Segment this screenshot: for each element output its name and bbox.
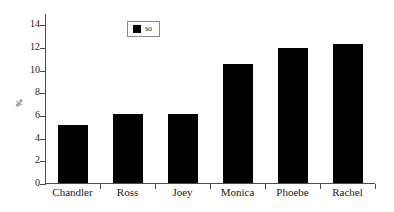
y-tick-label: 6: [35, 109, 40, 120]
y-tick-mark: [40, 93, 46, 94]
x-tick-mark: [155, 184, 156, 189]
y-tick-mark: [40, 48, 46, 49]
y-tick-label: 0: [35, 177, 40, 188]
x-tick-label: Ross: [117, 186, 138, 198]
bar: [333, 44, 363, 183]
legend-swatch-icon: [133, 25, 141, 33]
legend: so: [127, 21, 160, 37]
y-tick-label: 8: [35, 86, 40, 97]
x-tick-mark: [375, 184, 376, 189]
y-axis-line: [45, 14, 46, 184]
y-tick-mark: [40, 139, 46, 140]
y-tick-label: 12: [30, 41, 40, 52]
y-tick-label: 4: [35, 132, 40, 143]
plot-area: 02468101214: [45, 14, 375, 184]
x-tick-label: Joey: [172, 186, 192, 198]
y-tick-mark: [40, 25, 46, 26]
y-tick-label: 10: [30, 64, 40, 75]
x-tick-label: Monica: [221, 186, 255, 198]
legend-label: so: [145, 25, 152, 33]
bar: [278, 48, 308, 183]
x-tick-mark: [100, 184, 101, 189]
y-tick-label: 2: [35, 154, 40, 165]
y-axis-label: %: [4, 92, 34, 114]
bar: [223, 64, 253, 183]
bar: [58, 125, 88, 183]
y-tick-mark: [40, 116, 46, 117]
y-tick-label: 14: [30, 18, 40, 29]
bar: [168, 114, 198, 183]
x-tick-mark: [320, 184, 321, 189]
x-tick-mark: [210, 184, 211, 189]
x-tick-label: Rachel: [332, 186, 363, 198]
bar: [113, 114, 143, 183]
y-tick-mark: [40, 71, 46, 72]
x-tick-label: Phoebe: [276, 186, 308, 198]
y-tick-mark: [40, 184, 46, 185]
x-tick-mark: [265, 184, 266, 189]
bar-chart: % 02468101214 ChandlerRossJoeyMonicaPhoe…: [0, 0, 394, 212]
y-tick-mark: [40, 161, 46, 162]
x-tick-label: Chandler: [52, 186, 92, 198]
